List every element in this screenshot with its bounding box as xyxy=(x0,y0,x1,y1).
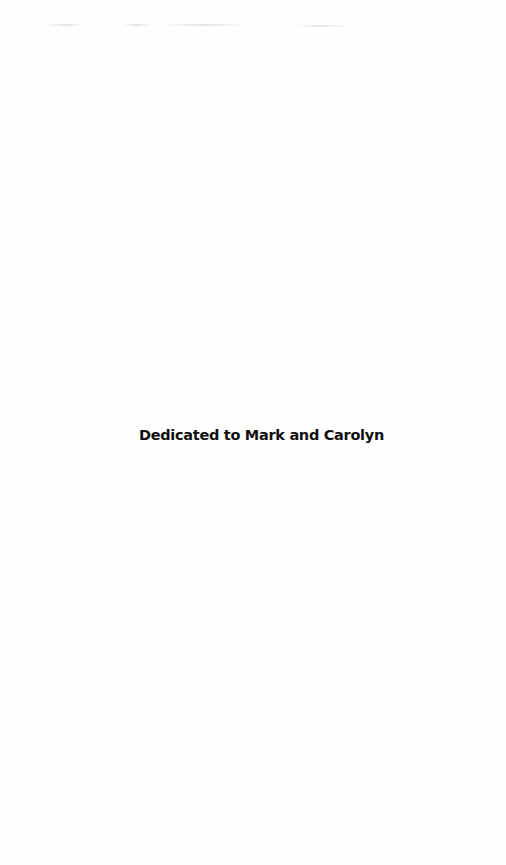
dedication-text: Dedicated to Mark and Carolyn xyxy=(139,425,384,445)
scan-artifact xyxy=(122,24,152,26)
scan-artifact xyxy=(45,24,85,26)
scan-artifact xyxy=(295,25,347,27)
book-page: Dedicated to Mark and Carolyn xyxy=(0,0,506,865)
scan-artifact xyxy=(160,24,248,26)
